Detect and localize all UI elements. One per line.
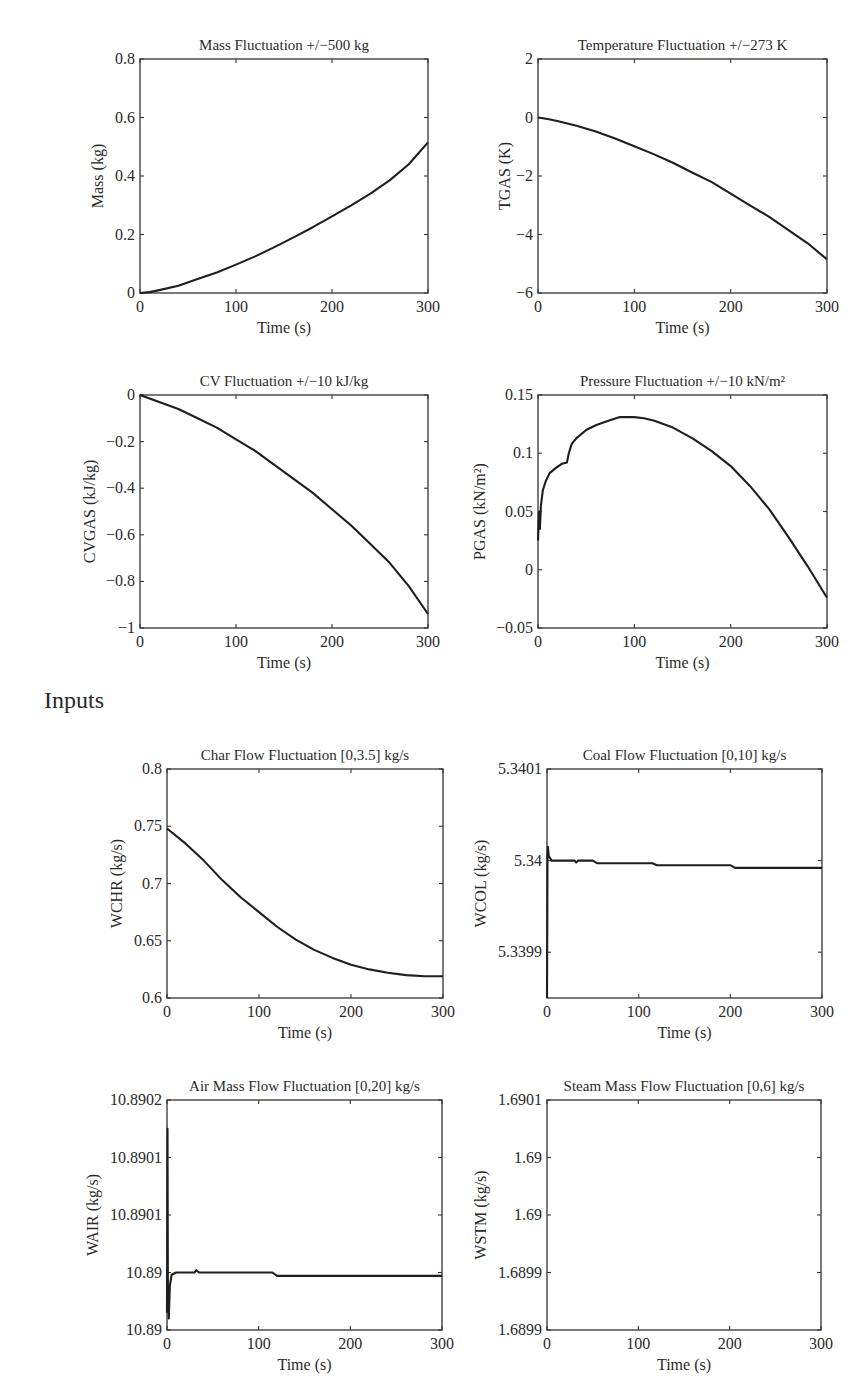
chart-title: Temperature Fluctuation +/−273 K	[578, 37, 788, 53]
plot-area	[538, 395, 827, 628]
y-tick-label: 0	[127, 386, 135, 403]
y-tick-label: 1.6899	[498, 1321, 542, 1338]
y-tick-label: 0	[525, 561, 533, 578]
y-tick-label: 0.6	[115, 109, 135, 126]
x-tick-label: 300	[809, 1335, 833, 1352]
y-tick-label: 10.89	[126, 1321, 162, 1338]
y-tick-label: −1	[118, 619, 135, 636]
y-tick-label: −0.4	[106, 479, 135, 496]
y-tick-label: 0.65	[134, 932, 162, 949]
x-tick-label: 0	[543, 1003, 551, 1020]
y-tick-label: −6	[516, 284, 533, 301]
y-tick-label: 0.1	[513, 444, 533, 461]
plot-area	[538, 59, 827, 293]
y-tick-label: 0.4	[115, 167, 135, 184]
x-tick-label: 100	[626, 1335, 650, 1352]
y-axis-label: TGAS (K)	[496, 142, 514, 210]
y-tick-label: 0.2	[115, 226, 135, 243]
x-tick-label: 200	[338, 1335, 362, 1352]
y-tick-label: 0.7	[142, 875, 162, 892]
y-tick-label: −0.6	[106, 526, 135, 543]
x-tick-label: 300	[430, 1335, 454, 1352]
x-tick-label: 200	[320, 633, 344, 650]
y-axis-label: PGAS (kN/m²)	[471, 463, 489, 560]
y-tick-label: 0	[127, 284, 135, 301]
x-tick-label: 0	[534, 633, 542, 650]
y-tick-label: −4	[516, 226, 533, 243]
chart-title: Coal Flow Fluctuation [0,10] kg/s	[583, 747, 787, 763]
y-tick-label: 0.6	[142, 989, 162, 1006]
chart-mass: Mass Fluctuation +/−500 kg0100200300Time…	[89, 37, 440, 337]
y-tick-label: 0.15	[505, 386, 533, 403]
x-tick-label: 0	[163, 1335, 171, 1352]
y-tick-label: −2	[516, 167, 533, 184]
x-tick-label: 0	[136, 633, 144, 650]
x-axis-label: Time (s)	[277, 1356, 331, 1374]
y-tick-label: 10.89	[126, 1264, 162, 1281]
chart-title: Mass Fluctuation +/−500 kg	[199, 37, 369, 53]
y-tick-label: 1.69	[514, 1149, 542, 1166]
x-axis-label: Time (s)	[655, 319, 709, 337]
x-tick-label: 300	[416, 633, 440, 650]
x-tick-label: 300	[416, 298, 440, 315]
y-tick-label: 1.6899	[498, 1264, 542, 1281]
y-tick-label: 10.8901	[110, 1206, 162, 1223]
x-tick-label: 100	[224, 298, 248, 315]
plot-area	[547, 1100, 821, 1330]
y-tick-label: −0.05	[496, 619, 533, 636]
y-tick-label: 0.75	[134, 817, 162, 834]
x-tick-label: 100	[622, 633, 646, 650]
y-tick-label: 2	[525, 50, 533, 67]
chart-cv: CV Fluctuation +/−10 kJ/kg0100200300Time…	[81, 373, 440, 672]
x-tick-label: 0	[543, 1335, 551, 1352]
x-tick-label: 0	[136, 298, 144, 315]
y-tick-label: 1.6901	[498, 1091, 542, 1108]
y-axis-label: WCHR (kg/s)	[108, 839, 126, 928]
x-tick-label: 200	[320, 298, 344, 315]
chart-air-flow: Air Mass Flow Fluctuation [0,20] kg/s010…	[84, 1078, 454, 1374]
x-tick-label: 200	[719, 633, 743, 650]
x-tick-label: 0	[163, 1003, 171, 1020]
y-tick-label: −0.8	[106, 572, 135, 589]
chart-title: Char Flow Fluctuation [0,3.5] kg/s	[201, 747, 409, 763]
x-axis-label: Time (s)	[657, 1356, 711, 1374]
y-axis-label: WSTM (kg/s)	[472, 1170, 490, 1259]
x-tick-label: 100	[622, 298, 646, 315]
x-tick-label: 100	[627, 1003, 651, 1020]
x-tick-label: 300	[431, 1003, 455, 1020]
x-tick-label: 300	[815, 633, 839, 650]
chart-title: CV Fluctuation +/−10 kJ/kg	[200, 373, 369, 389]
x-tick-label: 0	[534, 298, 542, 315]
y-tick-label: 10.8901	[110, 1149, 162, 1166]
x-tick-label: 200	[719, 298, 743, 315]
chart-coal-flow: Coal Flow Fluctuation [0,10] kg/s0100200…	[472, 747, 834, 1042]
x-axis-label: Time (s)	[657, 1024, 711, 1042]
y-tick-label: 0	[525, 109, 533, 126]
chart-title: Air Mass Flow Fluctuation [0,20] kg/s	[189, 1078, 420, 1094]
plot-area	[547, 769, 822, 998]
x-tick-label: 200	[339, 1003, 363, 1020]
y-axis-label: WAIR (kg/s)	[84, 1174, 102, 1256]
plot-area	[140, 395, 428, 628]
x-tick-label: 200	[718, 1003, 742, 1020]
y-axis-label: CVGAS (kJ/kg)	[81, 460, 99, 564]
x-axis-label: Time (s)	[257, 319, 311, 337]
plot-area	[167, 769, 443, 998]
y-tick-label: 0.8	[142, 760, 162, 777]
figure-canvas: Mass Fluctuation +/−500 kg0100200300Time…	[0, 0, 855, 1395]
y-tick-label: 10.8902	[110, 1091, 162, 1108]
plot-area	[167, 1100, 442, 1330]
y-tick-label: 5.3399	[498, 943, 542, 960]
plot-area	[140, 59, 428, 293]
x-tick-label: 100	[247, 1335, 271, 1352]
x-tick-label: 200	[718, 1335, 742, 1352]
chart-pressure: Pressure Fluctuation +/−10 kN/m²01002003…	[471, 373, 839, 672]
y-tick-label: 5.3401	[498, 760, 542, 777]
chart-char-flow: Char Flow Fluctuation [0,3.5] kg/s010020…	[108, 747, 455, 1042]
y-axis-label: Mass (kg)	[89, 144, 107, 208]
y-tick-label: 5.34	[514, 852, 542, 869]
chart-steam-flow: Steam Mass Flow Fluctuation [0,6] kg/s01…	[472, 1078, 833, 1374]
x-axis-label: Time (s)	[278, 1024, 332, 1042]
x-axis-label: Time (s)	[655, 654, 709, 672]
x-tick-label: 300	[810, 1003, 834, 1020]
